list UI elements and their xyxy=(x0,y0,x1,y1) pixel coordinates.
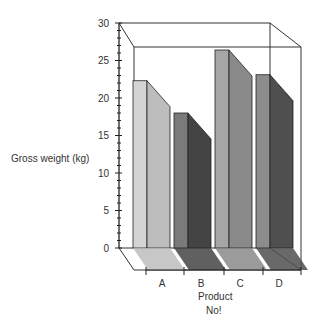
y-axis-label: Gross weight (kg) xyxy=(11,153,89,164)
y-tick-label: 15 xyxy=(98,130,110,141)
y-tick-label: 10 xyxy=(98,168,110,179)
x-axis-label-line2: No! xyxy=(206,305,222,316)
y-tick-label: 25 xyxy=(98,55,110,66)
y-tick-label: 0 xyxy=(103,243,109,254)
x-tick-label-D: D xyxy=(275,278,282,289)
x-tick-label-B: B xyxy=(198,278,205,289)
bar-D xyxy=(256,75,308,270)
x-tick-label-C: C xyxy=(236,278,243,289)
bar-chart-3d: 051015202530ABCD xyxy=(0,0,318,329)
x-axis-label-line1: Product xyxy=(198,291,232,302)
bars xyxy=(133,50,308,270)
x-tick-label-A: A xyxy=(159,278,166,289)
y-tick-label: 5 xyxy=(103,205,109,216)
y-tick-label: 30 xyxy=(98,18,110,29)
y-tick-label: 20 xyxy=(98,93,110,104)
